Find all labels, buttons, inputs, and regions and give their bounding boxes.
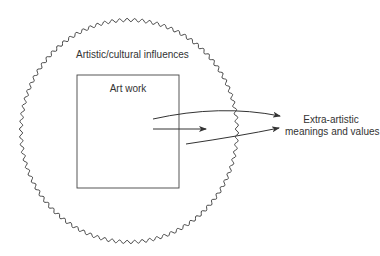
arrow-bottom-curved [186,128,279,144]
extra-artistic-label-line1: Extra-artistic [285,114,377,126]
outer-region-label: Artistic/cultural influences [76,49,189,61]
extra-artistic-label: Extra-artistic meanings and values [285,114,377,138]
extra-artistic-label-line2: meanings and values [285,126,377,138]
arrow-top-curved [153,111,280,119]
art-work-label: Art work [77,83,179,95]
